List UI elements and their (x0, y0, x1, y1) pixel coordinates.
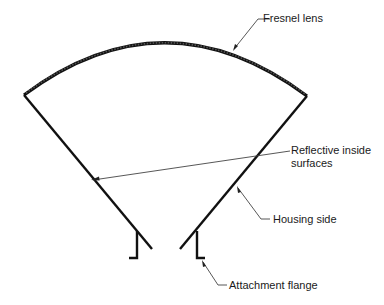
left-housing-side (24, 95, 152, 249)
left-attachment-flange (129, 231, 137, 258)
housing-side-arrowhead (237, 186, 241, 193)
label-fresnel-lens: Fresnel lens (263, 12, 323, 25)
fresnel-lens-arc (24, 43, 307, 96)
label-housing-side: Housing side (273, 213, 337, 226)
right-attachment-flange (197, 231, 205, 258)
label-reflective-line1: Reflective inside (291, 144, 371, 157)
label-attachment-flange: Attachment flange (229, 279, 318, 292)
attachment-flange-arrowhead (202, 260, 206, 267)
housing-side-leader (238, 188, 270, 219)
reflective-leader (93, 151, 290, 180)
label-reflective-line2: surfaces (291, 157, 333, 170)
attachment-flange-leader (203, 262, 227, 285)
right-housing-side (180, 96, 307, 249)
